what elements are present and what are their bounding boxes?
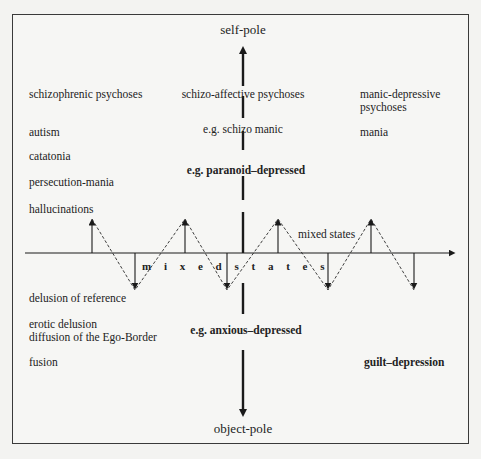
paranoid-depressed-example: e.g. paranoid–depressed [187, 164, 305, 177]
mixed-states-right-label: mixed states [298, 228, 355, 241]
schizophrenic-psychoses-heading: schizophrenic psychoses [29, 88, 142, 101]
object-pole-label: object-pole [214, 422, 272, 435]
catatonia-label: catatonia [29, 150, 71, 163]
anxious-depressed-example: e.g. anxious–depressed [190, 324, 301, 337]
manic-depressive-heading-line2: psychoses [360, 101, 407, 114]
guilt-depression-label: guilt–depression [364, 356, 444, 369]
fusion-label: fusion [29, 356, 58, 369]
autism-label: autism [29, 126, 60, 139]
persecution-mania-label: persecution-mania [29, 176, 114, 189]
hallucinations-label: hallucinations [29, 203, 94, 216]
ego-border-diffusion-label: diffusion of the Ego-Border [29, 331, 157, 344]
erotic-delusion-label: erotic delusion [29, 318, 97, 331]
diagram-lines [0, 0, 481, 459]
mixed-states-axis-label: m i x e d s t a t e s [142, 260, 330, 273]
schizo-affective-heading: schizo-affective psychoses [182, 88, 305, 101]
mixed-states-zigzag [92, 219, 414, 290]
manic-depressive-heading-line1: manic-depressive [360, 88, 440, 101]
self-pole-label: self-pole [220, 23, 265, 36]
delusion-of-reference-label: delusion of reference [29, 292, 126, 305]
mania-label: mania [360, 126, 388, 139]
schizo-manic-example: e.g. schizo manic [203, 123, 283, 136]
